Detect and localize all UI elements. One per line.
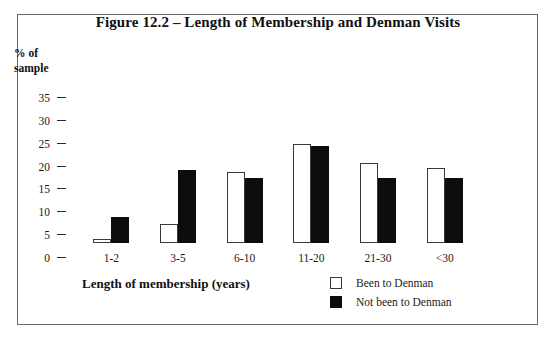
- y-tick-label: 30: [39, 115, 51, 127]
- bar-group: [293, 112, 329, 243]
- bar-been-to-denman: [227, 172, 245, 243]
- bar-been-to-denman: [160, 224, 178, 243]
- y-tick-dash-icon: [57, 234, 66, 235]
- y-tick-label: 25: [39, 138, 51, 150]
- bar-group: [160, 112, 196, 243]
- legend-label: Been to Denman: [356, 277, 433, 289]
- y-tick: 20: [14, 161, 66, 173]
- x-tick-label: 1-2: [78, 252, 145, 264]
- bar-not-been-to-denman: [111, 217, 129, 243]
- y-axis-ticks: 35302520151050: [14, 98, 66, 258]
- chart-legend: Been to DenmanNot been to Denman: [330, 273, 452, 311]
- white-square-icon: [330, 277, 342, 289]
- y-tick-dash-icon: [57, 120, 66, 121]
- legend-item: Been to Denman: [330, 273, 452, 292]
- y-tick-label: 20: [39, 161, 51, 173]
- y-tick-dash-icon: [57, 143, 66, 144]
- y-tick-label: 15: [39, 183, 51, 195]
- bar-not-been-to-denman: [445, 178, 463, 244]
- x-tick-label: 6-10: [211, 252, 278, 264]
- y-axis-title: % of sample: [14, 46, 49, 76]
- y-tick: 35: [14, 92, 66, 104]
- y-tick-label: 35: [39, 92, 51, 104]
- y-tick-dash-icon: [57, 188, 66, 189]
- bar-group: [227, 112, 263, 243]
- black-square-icon: [330, 296, 342, 308]
- y-tick-dash-icon: [57, 211, 66, 212]
- x-tick-label: <30: [411, 252, 478, 264]
- bar-not-been-to-denman: [245, 178, 263, 244]
- x-tick-label: 21-30: [345, 252, 412, 264]
- bar-not-been-to-denman: [378, 178, 396, 244]
- bar-been-to-denman: [93, 239, 111, 243]
- y-tick: 15: [14, 183, 66, 195]
- x-tick-label: 11-20: [278, 252, 345, 264]
- legend-label: Not been to Denman: [356, 296, 452, 308]
- legend-item: Not been to Denman: [330, 292, 452, 311]
- bar-group: [360, 112, 396, 243]
- y-tick-dash-icon: [57, 257, 66, 258]
- x-axis-tick-labels: 1-23-56-1011-2021-30<30: [78, 252, 478, 268]
- plot-area: [78, 112, 478, 243]
- y-tick: 30: [14, 115, 66, 127]
- y-tick-label: 0: [44, 252, 50, 264]
- bar-been-to-denman: [293, 144, 311, 243]
- y-tick: 25: [14, 138, 66, 150]
- y-tick-label: 5: [44, 229, 50, 241]
- x-tick-label: 3-5: [145, 252, 212, 264]
- x-axis-title: Length of membership (years): [82, 276, 250, 292]
- bar-group: [427, 112, 463, 243]
- y-tick-label: 10: [39, 206, 51, 218]
- bar-not-been-to-denman: [178, 170, 196, 243]
- bar-been-to-denman: [360, 163, 378, 243]
- y-tick: 5: [14, 229, 66, 241]
- chart-title: Figure 12.2 – Length of Membership and D…: [0, 14, 556, 31]
- bar-been-to-denman: [427, 168, 445, 243]
- y-tick-dash-icon: [57, 166, 66, 167]
- y-tick: 0: [14, 252, 66, 264]
- y-tick-dash-icon: [57, 97, 66, 98]
- bar-group: [93, 112, 129, 243]
- bar-not-been-to-denman: [311, 146, 329, 243]
- y-tick: 10: [14, 206, 66, 218]
